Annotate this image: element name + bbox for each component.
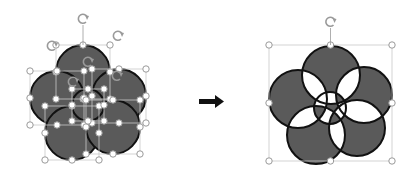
resize-handle[interactable] — [143, 66, 149, 72]
resize-handle[interactable] — [89, 66, 95, 72]
resize-handle[interactable] — [69, 118, 75, 124]
resize-handle[interactable] — [137, 124, 143, 130]
resize-handle[interactable] — [389, 42, 395, 48]
resize-handle[interactable] — [266, 100, 272, 106]
left-circle-group[interactable] — [27, 14, 149, 163]
resize-handle[interactable] — [137, 151, 143, 157]
resize-handle[interactable] — [27, 122, 33, 128]
resize-handle[interactable] — [389, 158, 395, 164]
resize-handle[interactable] — [96, 157, 102, 163]
resize-handle[interactable] — [143, 120, 149, 126]
rotate-handle-icon[interactable] — [326, 17, 337, 26]
resize-handle[interactable] — [107, 42, 113, 48]
resize-handle[interactable] — [53, 96, 59, 102]
resize-handle[interactable] — [110, 151, 116, 157]
resize-handle[interactable] — [389, 100, 395, 106]
merged-flower-shape[interactable] — [266, 17, 395, 164]
resize-handle[interactable] — [327, 158, 333, 164]
resize-handle[interactable] — [266, 42, 272, 48]
resize-handle[interactable] — [85, 86, 91, 92]
resize-handle[interactable] — [83, 151, 89, 157]
resize-handle[interactable] — [42, 157, 48, 163]
resize-handle[interactable] — [266, 158, 272, 164]
rotate-handle-icon[interactable] — [113, 31, 124, 40]
resize-handle[interactable] — [69, 157, 75, 163]
resize-handle[interactable] — [83, 97, 89, 103]
resize-handle[interactable] — [101, 118, 107, 124]
right-arrow-icon — [199, 95, 224, 108]
resize-handle[interactable] — [42, 130, 48, 136]
resize-handle[interactable] — [83, 124, 89, 130]
resize-handle[interactable] — [42, 103, 48, 109]
resize-handle[interactable] — [101, 102, 107, 108]
resize-handle[interactable] — [27, 68, 33, 74]
resize-handle[interactable] — [116, 120, 122, 126]
resize-handle[interactable] — [27, 95, 33, 101]
resize-handle[interactable] — [85, 118, 91, 124]
resize-handle[interactable] — [110, 97, 116, 103]
rotate-handle-icon[interactable] — [78, 14, 89, 23]
diagram-canvas — [0, 0, 416, 180]
resize-handle[interactable] — [69, 102, 75, 108]
resize-handle[interactable] — [81, 68, 87, 74]
resize-handle[interactable] — [89, 93, 95, 99]
resize-handle[interactable] — [137, 97, 143, 103]
resize-handle[interactable] — [54, 122, 60, 128]
resize-handle[interactable] — [101, 86, 107, 92]
resize-handle[interactable] — [54, 68, 60, 74]
resize-handle[interactable] — [143, 93, 149, 99]
resize-handle[interactable] — [96, 130, 102, 136]
